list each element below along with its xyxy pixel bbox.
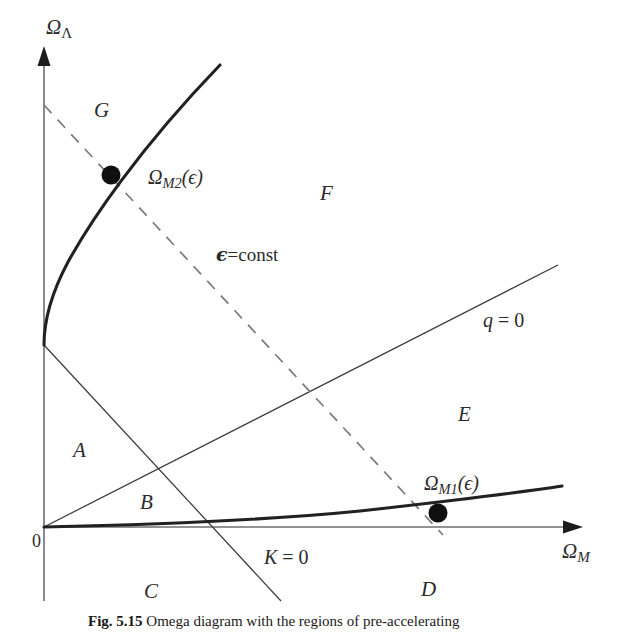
omega-m2-curve-label: ΩM2(ϵ) [148,167,203,190]
omega-m2-argument: (ϵ) [182,166,203,188]
region-label-d: D [421,579,436,600]
figure-caption-text: Omega diagram with the regions of pre-ac… [146,613,459,629]
omega-m2-omega-glyph: Ω [148,166,162,188]
y-axis-omega-glyph: Ω [46,15,61,39]
region-label-c: C [144,581,158,602]
figure-caption: Fig. 5.15 Omega diagram with the regions… [88,612,588,635]
figure-omega-diagram: ΩΛ ΩM 0 ΩM2(ϵ) ΩM1(ϵ) q = 0 K = 0 ϵ=cons… [0,0,633,635]
y-axis-lambda-subscript: Λ [61,25,72,41]
q-zero-line-label: q = 0 [483,310,524,330]
epsilon-glyph: ϵ [216,243,228,265]
y-axis-arrowhead [38,46,51,66]
figure-caption-number: Fig. 5.15 [88,613,143,629]
region-label-a: A [73,440,86,461]
x-axis-omega-glyph: Ω [562,539,577,563]
omega-diagram-canvas [0,0,633,635]
omega-m1-omega-glyph: Ω [424,472,438,494]
y-axis-label: ΩΛ [46,17,72,41]
epsilon-const-label: ϵ=const [216,245,278,264]
k-relation-text: = 0 [277,546,308,568]
q-zero-line [44,265,558,527]
omega-m2-point [102,166,121,185]
q-relation-text: = 0 [493,309,524,331]
x-axis-arrowhead [563,521,583,534]
origin-label: 0 [32,532,41,550]
q-variable-glyph: q [483,309,493,331]
omega-m1-curve [44,486,562,527]
x-axis-m-subscript: M [577,549,590,565]
region-label-b: B [140,492,153,513]
region-label-f: F [320,183,333,204]
omega-m2-curve [44,65,220,345]
epsilon-relation-text: =const [228,244,279,265]
omega-m1-curve-label: ΩM1(ϵ) [424,473,479,496]
omega-m1-argument: (ϵ) [458,472,479,494]
k-variable-glyph: K [264,546,277,568]
region-label-e: E [458,404,471,425]
omega-m1-subscript: M1 [438,481,457,497]
x-axis-label: ΩM [562,541,590,565]
omega-m2-subscript: M2 [162,175,181,191]
region-label-g: G [94,100,109,121]
k-zero-line-label: K = 0 [264,547,309,567]
k-zero-line [44,345,281,601]
omega-m1-point [429,504,448,523]
